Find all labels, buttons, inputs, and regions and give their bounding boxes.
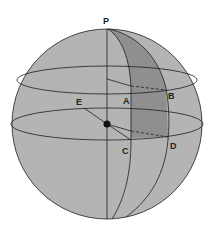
label-a: A [123, 96, 130, 106]
center-point [104, 121, 111, 128]
label-b: B [168, 91, 175, 101]
label-c: C [122, 146, 129, 156]
label-pole: P [103, 16, 109, 26]
label-e: E [76, 97, 82, 107]
label-d: D [170, 141, 177, 151]
sphere-diagram: P A B C D E [0, 0, 219, 229]
